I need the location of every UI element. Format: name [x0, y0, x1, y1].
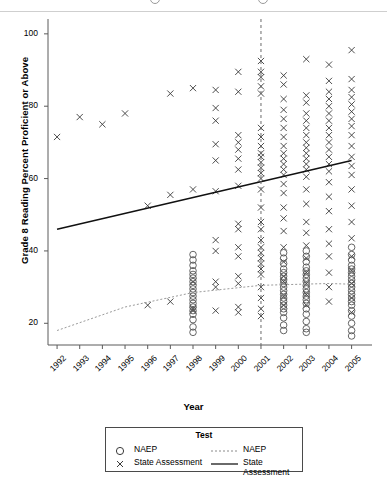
cropped-top-strip — [0, 0, 387, 13]
x-tick-label: 1993 — [67, 353, 91, 377]
legend-line-label-naep: NAEP — [243, 444, 266, 454]
x-tick-label: 1995 — [112, 353, 136, 377]
axes-group — [44, 19, 372, 349]
plot-area: 20406080100 — [0, 13, 387, 353]
x-tick-label: 2000 — [225, 353, 249, 377]
legend-point-label-naep: NAEP — [134, 444, 157, 454]
y-tick-label: 100 — [12, 28, 38, 38]
x-tick-label: 1998 — [180, 353, 204, 377]
legend-box: Test NAEP State Assessment NAEP State As… — [105, 427, 303, 472]
chart-root: 20406080100 1992199319941995199619971998… — [0, 0, 387, 484]
legend-line-solid-icon — [210, 456, 228, 468]
x-tick-label: 1992 — [44, 353, 68, 377]
x-tick-label: 2004 — [316, 353, 340, 377]
y-axis-label: Grade 8 Reading Percent Proficient or Ab… — [19, 41, 30, 281]
x-tick-label: 1996 — [135, 353, 159, 377]
trendline-state-assessment — [57, 160, 352, 229]
x-tick-label: 1997 — [157, 353, 181, 377]
legend-line-dotted-icon — [210, 443, 228, 455]
y-tick-label: 20 — [12, 317, 38, 327]
x-tick-label: 1999 — [203, 353, 227, 377]
x-tick-label: 2003 — [293, 353, 317, 377]
series-naep — [190, 244, 355, 339]
x-tick-label: 2001 — [248, 353, 272, 377]
trendline-naep — [57, 283, 352, 330]
chart-canvas — [0, 13, 387, 353]
cropped-glyph-right — [258, 0, 268, 4]
x-tick-label: 1994 — [89, 353, 113, 377]
data-points-layer — [54, 47, 355, 339]
legend-marker-circle-icon — [114, 443, 132, 455]
x-axis-label: Year — [0, 401, 387, 412]
x-tick-label: 2005 — [339, 353, 363, 377]
top-divider-rule — [0, 11, 387, 12]
legend-marker-cross-icon — [114, 456, 132, 468]
legend-point-label-state: State Assessment — [134, 457, 202, 467]
trendlines-layer — [57, 160, 352, 330]
legend-line-label-state: State Assessment — [243, 457, 302, 477]
legend-title: Test — [106, 430, 302, 440]
x-tick-label: 2002 — [271, 353, 295, 377]
cropped-glyph-left — [150, 0, 160, 4]
